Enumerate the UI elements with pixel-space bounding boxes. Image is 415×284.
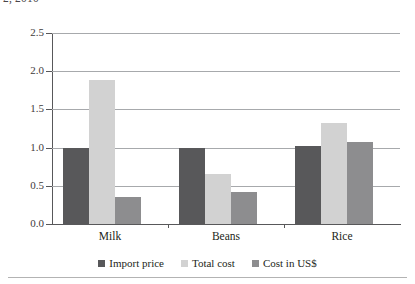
legend-label: Import price — [109, 258, 164, 269]
bar-beans-cost-in-us — [231, 192, 257, 224]
x-axis-tick — [168, 224, 169, 228]
bar-milk-import-price — [63, 148, 89, 224]
legend-swatch-icon — [181, 260, 188, 267]
bar-milk-cost-in-us — [115, 197, 141, 224]
gridline — [52, 224, 400, 225]
y-axis-tick-label: 1.0 — [0, 142, 44, 153]
x-axis-category-label: Milk — [60, 230, 160, 243]
y-axis-tick-label: 2.0 — [0, 65, 44, 76]
y-axis-tick — [46, 71, 52, 72]
gridline — [52, 71, 400, 72]
y-axis-tick — [46, 109, 52, 110]
legend-swatch-icon — [98, 260, 105, 267]
legend-item[interactable]: Cost in US$ — [252, 258, 317, 269]
y-axis-tick-label: 2.5 — [0, 27, 44, 38]
bar-milk-total-cost — [89, 80, 115, 224]
legend-item[interactable]: Import price — [98, 258, 164, 269]
footer-rule — [8, 277, 407, 278]
legend-swatch-icon — [252, 260, 259, 267]
legend-item[interactable]: Total cost — [181, 258, 235, 269]
gridline — [52, 33, 400, 34]
legend-label: Total cost — [192, 258, 235, 269]
bar-beans-import-price — [179, 148, 205, 224]
bar-rice-cost-in-us — [347, 142, 373, 224]
bar-rice-import-price — [295, 146, 321, 224]
x-axis-category-label: Rice — [292, 230, 392, 243]
bar-rice-total-cost — [321, 123, 347, 224]
y-axis-tick — [46, 33, 52, 34]
y-axis-tick — [46, 186, 52, 187]
x-axis-tick — [284, 224, 285, 228]
y-axis-tick — [46, 224, 52, 225]
y-axis-tick-label: 0.0 — [0, 218, 44, 229]
y-axis-tick-label: 1.5 — [0, 103, 44, 114]
chart-legend: Import priceTotal costCost in US$ — [0, 256, 415, 270]
y-axis-tick-label: 0.5 — [0, 180, 44, 191]
bar-beans-total-cost — [205, 174, 231, 224]
grouped-bar-chart: 0.00.51.01.52.02.5 MilkBeansRice — [0, 0, 415, 284]
legend-label: Cost in US$ — [263, 258, 317, 269]
plot-area — [52, 33, 400, 224]
y-axis-tick — [46, 148, 52, 149]
x-axis-category-label: Beans — [176, 230, 276, 243]
y-axis-labels: 0.00.51.01.52.02.5 — [0, 0, 44, 284]
